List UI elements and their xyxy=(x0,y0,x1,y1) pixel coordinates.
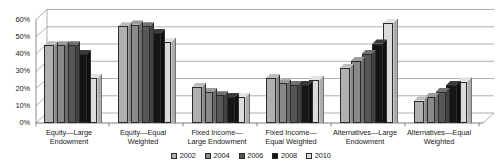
x-label-1: Equity—LargeEndowment xyxy=(31,128,107,146)
legend-item-2010: 2010 xyxy=(306,152,331,160)
plot-area: 60% 50% 40% 30% 20% 10% 0% Equity—LargeE… xyxy=(0,0,502,146)
x-label-6: Alternatives—EqualWeighted xyxy=(401,128,477,146)
x-label-line: Weighted xyxy=(105,137,181,146)
legend-label: 2010 xyxy=(315,152,331,160)
bar-side-face xyxy=(202,83,206,123)
bar-2002-6 xyxy=(414,96,428,123)
bar-front-face xyxy=(266,78,276,123)
bar-side-face xyxy=(287,79,291,123)
bar-side-face xyxy=(435,93,439,123)
bar-side-face xyxy=(54,41,58,123)
bar-group xyxy=(336,8,402,124)
x-label-line: Equity—Large xyxy=(31,128,107,137)
bar-side-face xyxy=(276,74,280,123)
x-label-line: Endowment xyxy=(327,137,403,146)
bar-group xyxy=(114,8,180,124)
bar-side-face xyxy=(171,38,175,123)
legend-item-2008: 2008 xyxy=(272,152,297,160)
bar-group xyxy=(40,8,106,124)
bar-side-face xyxy=(65,41,69,123)
bar-side-face xyxy=(139,20,143,123)
bar-side-face xyxy=(446,88,450,123)
legend-swatch-icon xyxy=(306,153,312,159)
bar-side-face xyxy=(87,50,91,123)
legend-label: 2006 xyxy=(247,152,263,160)
x-label-line: Alternatives—Equal xyxy=(401,128,477,137)
bar-group xyxy=(188,8,254,124)
x-label-5: Alternatives—LargeEndowment xyxy=(327,128,403,146)
x-label-line: Equal Weighted xyxy=(253,137,329,146)
bar-2002-5 xyxy=(340,64,354,123)
bar-side-face xyxy=(235,93,239,123)
x-label-line: Alternatives—Large xyxy=(327,128,403,137)
legend-swatch-icon xyxy=(239,153,245,159)
x-label-line: Endowment xyxy=(31,137,107,146)
bar-2002-3 xyxy=(192,83,206,123)
bar-side-face xyxy=(309,81,313,123)
x-label-line: Equity—Equal xyxy=(105,128,181,137)
bar-side-face xyxy=(150,22,154,123)
x-label-line: Weighted xyxy=(401,137,477,146)
bar-side-face xyxy=(361,57,365,123)
bar-front-face xyxy=(118,26,128,123)
bar-side-face xyxy=(97,74,101,123)
bar-front-face xyxy=(192,87,202,123)
bar-side-face xyxy=(383,39,387,123)
legend-label: 2008 xyxy=(281,152,297,160)
legend-swatch-icon xyxy=(205,153,211,159)
legend-label: 2004 xyxy=(213,152,229,160)
bar-side-face xyxy=(424,96,428,123)
x-label-3: Fixed Income—Large Endowment xyxy=(179,128,255,146)
bar-side-face xyxy=(298,81,302,123)
bar-side-face xyxy=(393,19,397,123)
bar-front-face xyxy=(340,68,350,123)
bar-chart: 60% 50% 40% 30% 20% 10% 0% Equity—LargeE… xyxy=(0,0,502,166)
bar-2002-2 xyxy=(118,22,132,123)
legend-label: 2002 xyxy=(180,152,196,160)
bar-side-face xyxy=(213,88,217,123)
x-label-4: Fixed Income—Equal Weighted xyxy=(253,128,329,146)
x-label-2: Equity—EqualWeighted xyxy=(105,128,181,146)
bar-side-face xyxy=(319,76,323,123)
x-label-line: Fixed Income— xyxy=(179,128,255,137)
bar-2002-4 xyxy=(266,74,280,123)
bar-side-face xyxy=(128,22,132,123)
legend-item-2002: 2002 xyxy=(171,152,196,160)
legend: 20022004200620082010 xyxy=(0,149,502,163)
x-label-line: Large Endowment xyxy=(179,137,255,146)
bar-side-face xyxy=(350,64,354,123)
legend-item-2004: 2004 xyxy=(205,152,230,160)
bar-side-face xyxy=(457,81,461,123)
legend-swatch-icon xyxy=(272,153,278,159)
x-axis-category-labels: Equity—LargeEndowmentEquity—EqualWeighte… xyxy=(0,120,502,148)
bar-side-face xyxy=(161,29,165,123)
legend-item-2006: 2006 xyxy=(239,152,264,160)
bar-group xyxy=(410,8,476,124)
bar-side-face xyxy=(467,77,471,123)
bar-group xyxy=(262,8,328,124)
legend-swatch-icon xyxy=(171,153,177,159)
bar-side-face xyxy=(245,93,249,123)
bar-side-face xyxy=(224,91,228,123)
bar-side-face xyxy=(76,41,80,123)
x-label-line: Fixed Income— xyxy=(253,128,329,137)
bar-2002-1 xyxy=(44,41,58,123)
bar-side-face xyxy=(372,50,376,123)
bar-front-face xyxy=(44,45,54,123)
